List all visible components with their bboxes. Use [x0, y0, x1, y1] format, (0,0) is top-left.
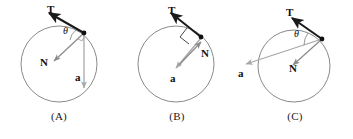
panel-a: T N a θ (A) — [0, 0, 118, 139]
tension-label-a: T — [47, 4, 54, 15]
panel-caption-b: (B) — [118, 110, 236, 122]
panel-c: T N a θ (C) — [236, 0, 353, 139]
tension-label-c: T — [286, 7, 293, 18]
angle-label-c: θ — [294, 29, 299, 39]
normal-label-c: N — [289, 63, 297, 74]
panel-b: T N a (B) — [118, 0, 236, 139]
acceleration-label-a: a — [75, 72, 81, 83]
ball-marker-c — [320, 37, 325, 42]
normal-label-b: N — [201, 48, 209, 59]
panel-caption-a: (A) — [0, 110, 118, 122]
acceleration-vector-c — [246, 39, 322, 64]
normal-label-a: N — [40, 57, 48, 68]
angle-label-a: θ — [63, 26, 68, 36]
figure-root: T N a θ (A) — [0, 0, 353, 139]
normal-vector-a — [54, 33, 84, 61]
tension-vector-b — [171, 13, 201, 37]
angle-arc-a — [70, 30, 76, 40]
right-angle-marker-b — [180, 28, 189, 44]
circle-path-a — [21, 26, 97, 102]
normal-vector-b — [179, 42, 201, 65]
ball-marker-b — [199, 35, 204, 40]
acceleration-label-c: a — [238, 68, 244, 79]
panel-caption-c: (C) — [236, 110, 353, 122]
normal-vector-c — [293, 39, 322, 65]
acceleration-label-b: a — [170, 73, 176, 84]
tension-label-b: T — [168, 5, 175, 16]
ball-marker-a — [82, 31, 87, 36]
